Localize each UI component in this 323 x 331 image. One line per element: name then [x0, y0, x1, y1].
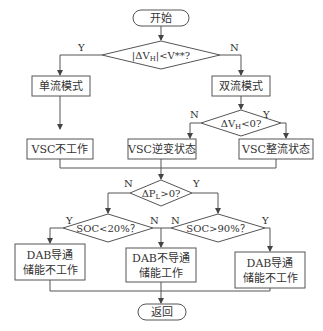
svg-text:开始: 开始 [150, 11, 172, 25]
svg-text:储能不工作: 储能不工作 [243, 271, 298, 285]
svg-text:双流模式: 双流模式 [219, 79, 263, 93]
label-no: N [230, 42, 239, 53]
decision-soc-high: SOC>90%？ [171, 214, 265, 242]
start-terminal: 开始 [133, 10, 189, 26]
svg-text:储能不工作: 储能不工作 [23, 263, 78, 277]
dab-off-storage-on-box: DAB不导通 储能工作 [126, 248, 196, 282]
svg-text:单流模式: 单流模式 [39, 79, 83, 93]
svg-text:DAB不导通: DAB不导通 [132, 252, 190, 265]
svg-text:VSC不工作: VSC不工作 [31, 143, 89, 156]
decision-soc-low: SOC<20%？ [63, 214, 153, 242]
label-yes: Y [77, 42, 85, 53]
svg-text:N: N [150, 215, 159, 226]
decision-voltage-deviation: |ΔVH|<V**? [102, 41, 220, 69]
svg-text:储能工作: 储能工作 [139, 266, 183, 280]
vsc-off-box: VSC不工作 [27, 139, 93, 159]
decision-power-positive: ΔPL>0? [130, 180, 192, 206]
flowchart: 开始 |ΔVH|<V**? Y N 单流模式 双流模式 ΔVH<0? N Y V… [0, 0, 323, 331]
svg-text:VSC整流状态: VSC整流状态 [241, 142, 310, 156]
svg-text:Y: Y [261, 215, 269, 226]
svg-text:N: N [171, 215, 180, 226]
svg-text:DAB导通: DAB导通 [247, 257, 294, 270]
single-flow-mode-box: 单流模式 [32, 76, 90, 96]
svg-text:SOC<20%？: SOC<20%？ [76, 223, 139, 234]
return-terminal: 返回 [138, 304, 186, 320]
vsc-inverter-box: VSC逆变状态 [127, 139, 196, 159]
svg-text:Y: Y [192, 178, 200, 189]
svg-text:DAB导通: DAB导通 [27, 249, 74, 262]
svg-text:返回: 返回 [151, 306, 173, 319]
dab-on-storage-off-left-box: DAB导通 储能不工作 [15, 244, 85, 280]
vsc-rectifier-box: VSC整流状态 [239, 139, 313, 159]
svg-text:Y: Y [262, 109, 270, 120]
svg-text:VSC逆变状态: VSC逆变状态 [127, 142, 196, 156]
dual-flow-mode-box: 双流模式 [212, 76, 270, 96]
svg-text:N: N [190, 109, 199, 120]
svg-text:Y: Y [65, 215, 73, 226]
dab-on-storage-off-right-box: DAB导通 储能不工作 [235, 252, 305, 288]
svg-text:N: N [124, 178, 133, 189]
svg-text:SOC>90%？: SOC>90%？ [186, 223, 249, 234]
